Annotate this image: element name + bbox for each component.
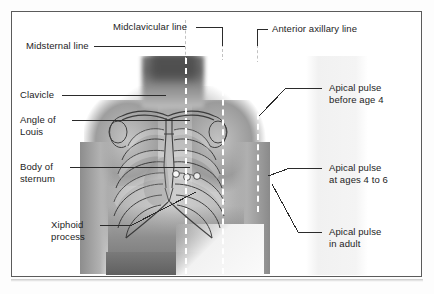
label-apical-pulse-in-adult-line1: Apical pulse [329,226,381,238]
label-apical-pulse-before-age-4-line1: Apical pulse [329,82,381,94]
label-angle-of-louis-line1: Angle of [20,114,56,126]
anatomy-figure: Midclavicular line Midsternal line Anter… [0,0,434,294]
label-midsternal-line: Midsternal line [26,40,89,52]
label-anterior-axillary-line: Anterior axillary line [272,23,357,35]
label-apical-pulse-ages-4-to-6-line2: at ages 4 to 6 [329,174,388,186]
label-xiphoid-process-line2: process [51,231,85,243]
label-clavicle: Clavicle [20,89,54,101]
anterior-axillary-line [257,62,259,212]
midclavicular-line [222,60,224,274]
label-body-of-sternum-line1: Body of [20,161,53,173]
label-apical-pulse-in-adult-line2: in adult [329,238,360,250]
label-apical-pulse-ages-4-to-6-line1: Apical pulse [329,162,381,174]
label-midclavicular-line: Midclavicular line [113,21,187,33]
anterior-axillary-line-upper [257,34,258,64]
torso-photograph [80,56,270,275]
label-body-of-sternum-line2: sternum [20,173,55,185]
midsternal-line [185,58,187,274]
scan-edge-shadow [11,279,423,282]
label-xiphoid-process-line1: Xiphoid [51,219,83,231]
rib-cage-overlay [80,56,270,275]
label-apical-pulse-before-age-4-line2: before age 4 [329,94,384,106]
label-angle-of-louis-line2: Louis [20,126,43,138]
midclavicular-line-upper [222,34,223,62]
